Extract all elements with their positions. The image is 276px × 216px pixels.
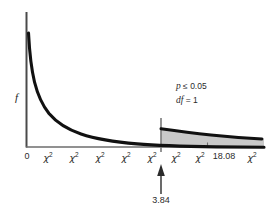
- x-tick-label-7: χ2: [193, 152, 207, 163]
- p-annotation: p ≤ 0.05: [176, 80, 207, 94]
- statistics-annotation: p ≤ 0.05 df = 1: [176, 80, 207, 108]
- x-tick-label-6: χ2: [169, 152, 183, 163]
- df-annotation: df = 1: [176, 94, 207, 108]
- chi-exponent: 2: [177, 151, 181, 158]
- chi-exponent: 2: [253, 151, 257, 158]
- x-tick-label-3: χ2: [93, 152, 107, 163]
- x-tick-label-4: χ2: [119, 152, 133, 163]
- x-tick-label-0: 0: [22, 152, 32, 161]
- x-tick-label-18: 18.08: [210, 152, 238, 161]
- x-tick-label-2: χ2: [67, 152, 81, 163]
- plot-canvas: [0, 0, 276, 216]
- chi-exponent: 2: [75, 151, 79, 158]
- x-tick-label-9: χ2: [245, 152, 259, 163]
- density-curve: [29, 33, 265, 147]
- x-tick-text-18: 18.08: [213, 151, 236, 161]
- df-value-text: = 1: [183, 95, 197, 105]
- x-tick-label-1: χ2: [41, 152, 55, 163]
- chi-exponent: 2: [49, 151, 53, 158]
- chi-exponent: 2: [127, 151, 131, 158]
- y-axis-label: f: [15, 92, 18, 103]
- critical-value-label: 3.84: [147, 196, 175, 205]
- x-tick-label-5: χ2: [145, 152, 159, 163]
- chi-exponent: 2: [153, 151, 157, 158]
- chi-exponent: 2: [201, 151, 205, 158]
- critical-value-arrow-head: [157, 164, 165, 176]
- chi-square-distribution-figure: f 0 χ2 χ2 χ2 χ2 χ2 χ2 χ2 18.08 χ2 p ≤ 0.…: [0, 0, 276, 216]
- p-value-text: ≤ 0.05: [181, 81, 207, 91]
- chi-exponent: 2: [101, 151, 105, 158]
- x-tick-text-0: 0: [24, 151, 29, 161]
